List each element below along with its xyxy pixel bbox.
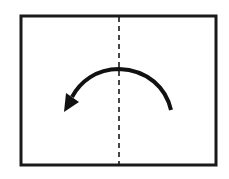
diagram-svg — [0, 0, 229, 179]
fold-diagram — [0, 0, 229, 179]
